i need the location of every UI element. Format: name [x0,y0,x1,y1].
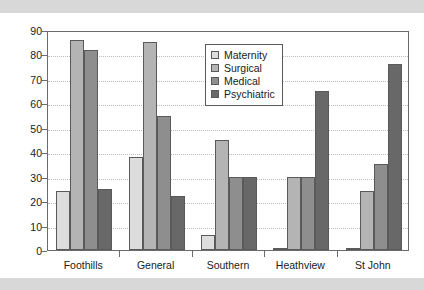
x-axis-tick-label: Southern [192,260,264,271]
bar-surgical-southern [215,140,229,250]
chart-figure: 0102030405060708090 FoothillsGeneralSout… [0,0,424,290]
y-axis-tick-label: 70 [16,75,42,86]
legend-item-surgical: Surgical [211,62,275,74]
bar-group [346,32,402,250]
bar-maternity-southern [201,235,215,250]
bar-maternity-st-john [346,248,360,250]
bar-group [56,32,112,250]
chart-legend: MaternitySurgicalMedicalPsychiatric [205,44,283,106]
bar-maternity-general [129,157,143,250]
y-axis-tick-label: 30 [16,173,42,184]
legend-label: Maternity [224,50,267,61]
bar-surgical-foothills [70,40,84,250]
y-axis-tick-label: 20 [16,197,42,208]
legend-swatch-icon [211,90,219,98]
bar-medical-heathview [301,177,315,250]
y-axis-tick-mark [41,251,47,252]
y-axis-tick-label: 60 [16,99,42,110]
y-axis-tick-label: 0 [16,246,42,257]
legend-swatch-icon [211,77,219,85]
y-axis-tick-label: 90 [16,26,42,37]
bar-medical-southern [229,177,243,250]
bar-surgical-heathview [287,177,301,250]
bar-psychiatric-southern [243,177,257,250]
bar-surgical-st-john [360,191,374,250]
y-axis-tick-label: 40 [16,148,42,159]
bar-medical-general [157,116,171,250]
top-band [0,0,424,13]
legend-label: Psychiatric [224,89,275,100]
bar-maternity-foothills [56,191,70,250]
x-axis-tick-label: Heathview [264,260,336,271]
x-axis-tick-label: St John [337,260,409,271]
y-axis-tick-label: 80 [16,50,42,61]
bar-medical-st-john [374,164,388,250]
x-axis-tick-mark [264,251,265,257]
y-axis-tick-label: 50 [16,124,42,135]
x-axis-tick-mark [192,251,193,257]
bar-surgical-general [143,42,157,250]
legend-item-medical: Medical [211,75,275,87]
x-axis-tick-mark [337,251,338,257]
legend-swatch-icon [211,51,219,59]
bar-medical-foothills [84,50,98,250]
legend-swatch-icon [211,64,219,72]
bar-psychiatric-foothills [98,189,112,250]
x-axis-tick-mark [119,251,120,257]
y-axis-tick-label: 10 [16,222,42,233]
legend-item-psychiatric: Psychiatric [211,88,275,100]
bottom-band [0,278,424,290]
bar-psychiatric-st-john [388,64,402,250]
bar-maternity-heathview [273,248,287,250]
legend-item-maternity: Maternity [211,49,275,61]
legend-label: Medical [224,76,260,87]
x-axis-tick-label: General [119,260,191,271]
bar-psychiatric-general [171,196,185,250]
bar-group [129,32,185,250]
legend-label: Surgical [224,63,262,74]
x-axis-tick-label: Foothills [47,260,119,271]
bar-psychiatric-heathview [315,91,329,250]
